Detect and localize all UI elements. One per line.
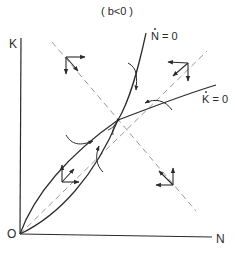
arrow-cluster-lower-left-icon (62, 165, 79, 182)
phase-diagram-svg: ( b<0 ) K N O N = 0 K = 0 (0, 0, 235, 255)
svg-text:K = 0: K = 0 (202, 93, 228, 105)
k-dot-nullcline-curve (20, 85, 216, 234)
equilibrium-point (117, 119, 120, 122)
k-dot-derivative-dot (205, 91, 207, 93)
k-axis-label: K (9, 37, 17, 51)
n-axis (20, 234, 212, 237)
n-dot-nullcline-curve (20, 33, 146, 234)
n-axis-label: N (216, 232, 225, 246)
n-dot-label-suffix: = 0 (159, 30, 178, 42)
diagram-title: ( b<0 ) (101, 5, 133, 17)
svg-text:N = 0: N = 0 (151, 30, 178, 42)
descending-dashed-line (52, 42, 196, 211)
n-dot-label-base: N (151, 30, 159, 42)
n-dot-derivative-dot (154, 28, 156, 30)
k-dot-label: K = 0 (202, 91, 228, 105)
k-axis (20, 38, 21, 234)
arrow-cluster-upper-right-icon (168, 62, 188, 81)
n-dot-label: N = 0 (151, 28, 178, 42)
phase-diagram: ( b<0 ) K N O N = 0 K = 0 (0, 0, 235, 255)
k-dot-label-suffix: = 0 (209, 93, 228, 105)
ray-from-origin-dashed-line (20, 51, 207, 234)
arrow-cluster-upper-left-icon (66, 57, 85, 74)
arrow-cluster-lower-right-icon (156, 168, 173, 185)
origin-label: O (7, 227, 16, 241)
trajectory-hook-n-lower-icon (66, 135, 93, 144)
